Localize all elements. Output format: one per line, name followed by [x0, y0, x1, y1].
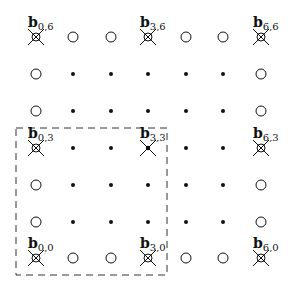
- dot-point: [71, 109, 75, 113]
- open-circle-icon: [68, 32, 78, 42]
- label-b-3-6: b3,6: [140, 14, 166, 32]
- dot-icon: [184, 220, 188, 224]
- open-circle-point: [31, 106, 41, 116]
- open-circle-point: [181, 253, 191, 263]
- open-circle-point: [256, 106, 266, 116]
- dot-point: [184, 72, 188, 76]
- dot-icon: [146, 183, 150, 187]
- open-circle-point: [256, 180, 266, 190]
- dot-icon: [109, 220, 113, 224]
- dot-icon: [71, 146, 75, 150]
- dot-point: [184, 146, 188, 150]
- dot-point: [109, 183, 113, 187]
- open-circle-icon: [31, 180, 41, 190]
- dot-point: [221, 146, 225, 150]
- open-circle-point: [68, 32, 78, 42]
- open-circle-point: [31, 69, 41, 79]
- dot-icon: [184, 146, 188, 150]
- dot-icon: [71, 220, 75, 224]
- dot-icon: [221, 220, 225, 224]
- dot-icon: [184, 109, 188, 113]
- lattice-points: [28, 29, 269, 266]
- label-b-3-0: b3,0: [140, 235, 166, 253]
- open-circle-icon: [256, 69, 266, 79]
- open-circle-point: [256, 69, 266, 79]
- point-labels: b0,6b3,6b6,6b0,3b3,3b6,3b0,0b3,0b6,0: [28, 14, 279, 253]
- dot-point: [146, 109, 150, 113]
- dot-icon: [146, 72, 150, 76]
- dot-point: [221, 72, 225, 76]
- dot-icon: [71, 109, 75, 113]
- dot-icon: [109, 72, 113, 76]
- dot-icon: [146, 109, 150, 113]
- dot-point: [109, 72, 113, 76]
- dot-point: [71, 183, 75, 187]
- dot-icon: [184, 72, 188, 76]
- dot-point: [221, 220, 225, 224]
- open-circle-point: [218, 253, 228, 263]
- open-circle-icon: [181, 253, 191, 263]
- dot-icon: [221, 72, 225, 76]
- dot-point: [109, 146, 113, 150]
- label-b-6-3: b6,3: [253, 125, 279, 143]
- dot-icon: [146, 220, 150, 224]
- open-circle-point: [256, 217, 266, 227]
- open-circle-icon: [106, 253, 116, 263]
- open-circle-icon: [256, 106, 266, 116]
- dot-point: [71, 146, 75, 150]
- dot-point: [146, 183, 150, 187]
- dot-icon: [109, 109, 113, 113]
- dot-point: [146, 220, 150, 224]
- dot-icon: [221, 109, 225, 113]
- label-b-6-0: b6,0: [253, 235, 279, 253]
- label-b-0-6: b0,6: [28, 14, 54, 32]
- dot-point: [184, 220, 188, 224]
- dot-icon: [71, 72, 75, 76]
- dot-icon: [109, 146, 113, 150]
- dot-point: [71, 220, 75, 224]
- open-circle-point: [31, 180, 41, 190]
- dot-point: [109, 220, 113, 224]
- dot-icon: [184, 183, 188, 187]
- open-circle-icon: [256, 180, 266, 190]
- open-circle-icon: [68, 253, 78, 263]
- open-circle-icon: [218, 32, 228, 42]
- dot-point: [184, 109, 188, 113]
- dot-point: [184, 183, 188, 187]
- dot-icon: [146, 146, 150, 150]
- dot-icon: [109, 183, 113, 187]
- dot-point: [221, 109, 225, 113]
- open-circle-icon: [106, 32, 116, 42]
- open-circle-icon: [218, 253, 228, 263]
- open-circle-icon: [256, 217, 266, 227]
- dot-icon: [221, 146, 225, 150]
- dot-icon: [71, 183, 75, 187]
- dot-point: [221, 183, 225, 187]
- label-b-0-0: b0,0: [28, 235, 54, 253]
- open-circle-point: [181, 32, 191, 42]
- dot-point: [146, 72, 150, 76]
- open-circle-icon: [31, 217, 41, 227]
- open-circle-point: [106, 32, 116, 42]
- open-circle-point: [106, 253, 116, 263]
- open-circle-point: [31, 217, 41, 227]
- open-circle-icon: [31, 106, 41, 116]
- dot-point: [71, 72, 75, 76]
- open-circle-icon: [31, 69, 41, 79]
- lattice-diagram: b0,6b3,6b6,6b0,3b3,3b6,3b0,0b3,0b6,0: [0, 0, 297, 289]
- open-circle-point: [218, 32, 228, 42]
- open-circle-icon: [181, 32, 191, 42]
- label-b-6-6: b6,6: [253, 14, 279, 32]
- dot-icon: [221, 183, 225, 187]
- dot-point: [109, 109, 113, 113]
- open-circle-point: [68, 253, 78, 263]
